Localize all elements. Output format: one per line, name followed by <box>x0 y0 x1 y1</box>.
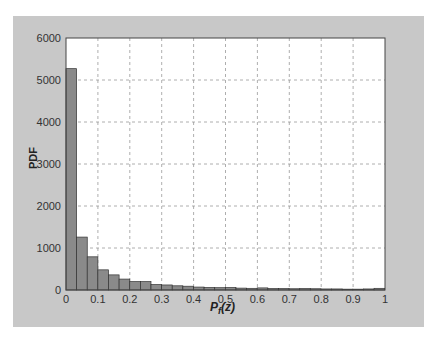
y-axis-label: PDF <box>27 147 39 169</box>
x-label-main: P <box>210 300 218 314</box>
histogram-bar <box>183 286 194 290</box>
x-tick-label: 0.6 <box>250 293 265 305</box>
x-tick-label: 0.7 <box>282 293 297 305</box>
histogram-bar <box>87 257 98 290</box>
y-tick-label: 0 <box>55 284 61 296</box>
y-tick-label: 3000 <box>37 158 61 170</box>
x-tick-label: 0.3 <box>154 293 169 305</box>
x-axis-label: Pf(z) <box>210 300 235 316</box>
y-tick-label: 1000 <box>37 242 61 254</box>
y-tick-label: 4000 <box>37 116 61 128</box>
histogram-bar <box>140 282 151 290</box>
histogram-bar <box>77 237 88 290</box>
x-tick-label: 0 <box>63 293 69 305</box>
x-tick-label: 0.2 <box>122 293 137 305</box>
histogram-bar <box>130 282 141 290</box>
histogram-bar <box>172 286 183 290</box>
x-tick-label: 0.8 <box>314 293 329 305</box>
histogram-bar <box>98 270 109 290</box>
y-tick-label: 5000 <box>37 74 61 86</box>
y-tick-label: 2000 <box>37 200 61 212</box>
histogram-bar <box>151 285 162 290</box>
histogram-bar <box>108 275 119 290</box>
histogram-bar <box>162 285 173 290</box>
x-tick-label: 0.4 <box>186 293 201 305</box>
y-tick-label: 6000 <box>37 32 61 44</box>
histogram-bar <box>119 279 130 290</box>
histogram-chart: 00.10.20.30.40.50.60.70.80.9101000200030… <box>0 0 435 338</box>
x-tick-label: 0.9 <box>345 293 360 305</box>
x-tick-label: 1 <box>382 293 388 305</box>
histogram-bar <box>66 69 77 290</box>
x-tick-label: 0.1 <box>90 293 105 305</box>
x-label-arg: (z) <box>221 300 235 314</box>
